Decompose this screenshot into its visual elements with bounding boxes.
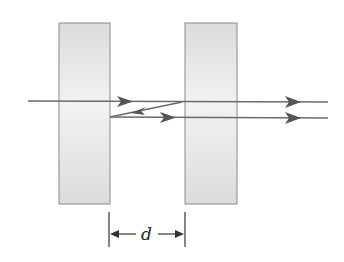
arrow-left-icon [131, 107, 146, 115]
left-plate [59, 23, 110, 204]
dimension-right-arrow-icon [175, 230, 184, 238]
dimension-label: d [141, 224, 152, 244]
right-plate [185, 23, 237, 204]
diagram-canvas: d [0, 0, 344, 262]
dimension-left-arrow-icon [110, 230, 119, 238]
